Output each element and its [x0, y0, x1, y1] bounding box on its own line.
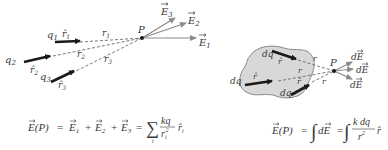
integral-equation: E(P) = ∫ dE = ∫ k dq r2 r̂ — [271, 116, 381, 144]
svg-text:dE: dE — [351, 52, 364, 62]
field-E1-label: E1 — [198, 34, 211, 51]
dq-bottom-label: dq — [280, 88, 292, 98]
svg-text:=: = — [136, 121, 142, 133]
unit-vector-r2-arrow — [24, 56, 50, 62]
equation-term-E2: E2 — [94, 121, 106, 135]
point-P-label: P — [137, 24, 145, 35]
unit-vector-r3-label: r̂3 — [58, 80, 66, 91]
distance-r-top-label: r — [313, 54, 318, 63]
continuous-charge-diagram: P dq r̂ r dq r̂ r dq r̂ r dE dE dE — [230, 46, 369, 98]
svg-text:dE: dE — [350, 80, 363, 90]
equation-term-E3: E3 — [120, 121, 132, 135]
integral-equation-lhs: E(P) — [271, 124, 293, 137]
dq-middle-label: dq — [230, 76, 242, 86]
unit-vector-ri: r̂i — [178, 122, 184, 134]
distance-r2-label: r2 — [77, 49, 85, 60]
charge-q2-label: q2 — [5, 54, 16, 67]
distance-r3-label: r3 — [104, 54, 112, 65]
svg-text:E2: E2 — [187, 15, 200, 28]
equation-term-E1: E1 — [68, 121, 79, 135]
svg-text:=: = — [301, 124, 307, 136]
point-P-dot-right — [332, 69, 336, 73]
field-E2-label: E2 — [187, 12, 200, 29]
svg-text:E3: E3 — [160, 6, 173, 19]
svg-text:=: = — [337, 124, 343, 136]
svg-text:+: + — [85, 121, 91, 133]
distance-r1-label: r1 — [102, 28, 110, 39]
integral-symbol-2: ∫ — [342, 120, 351, 144]
field-E3-label: E3 — [160, 3, 173, 20]
field-dE-bottom-arrow — [334, 71, 352, 79]
fraction-numerator: kq — [161, 115, 170, 126]
superposition-equation: E(P) = E1 + E2 + E3 = ∑ i kq ri2 r̂i — [27, 115, 184, 144]
field-dE-bottom-label: dE — [350, 78, 363, 91]
integral-fraction-numerator: k dq — [353, 116, 370, 127]
unit-vector-r2-label: r̂2 — [30, 65, 38, 76]
charge-q1-label: q1 — [47, 29, 58, 42]
svg-text:i: i — [152, 138, 154, 144]
unit-vector-r1-arrow — [55, 41, 80, 42]
dq-top-label: dq — [262, 49, 274, 59]
svg-text:E1: E1 — [198, 37, 211, 50]
fraction-denominator: ri2 — [161, 127, 169, 140]
point-P-label-right: P — [329, 57, 337, 68]
electric-field-diagram: P q1 q2 q3 r̂1 r̂2 r̂3 r1 r2 r3 E1 E2 E3… — [0, 0, 388, 150]
sum-symbol: ∑ — [146, 118, 159, 138]
field-dE-top-label: dE — [351, 50, 364, 63]
distance-r-bottom-label: r — [322, 77, 327, 86]
svg-text:=: = — [57, 121, 63, 133]
discrete-charges-diagram: P q1 q2 q3 r̂1 r̂2 r̂3 r1 r2 r3 E1 E2 E3 — [5, 3, 211, 92]
equation-lhs: E(P) — [27, 121, 49, 134]
charge-q3-label: q3 — [40, 71, 51, 84]
unit-vector-r3-arrow — [51, 71, 74, 82]
integrand-dE: dE — [318, 124, 331, 136]
unit-vector-r1-label: r̂1 — [62, 29, 70, 40]
field-dE-middle-label: dE — [356, 63, 369, 76]
integral-unit-vector: r̂ — [377, 125, 381, 136]
integral-symbol-1: ∫ — [309, 120, 318, 144]
integral-fraction-denominator: r2 — [358, 130, 365, 142]
svg-text:dE: dE — [356, 65, 369, 75]
point-P-dot — [140, 36, 144, 40]
svg-text:+: + — [111, 121, 117, 133]
